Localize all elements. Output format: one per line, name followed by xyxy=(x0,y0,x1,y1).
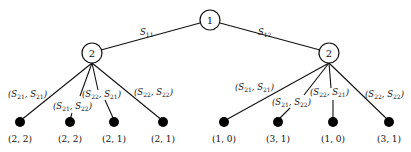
leaf-node xyxy=(109,117,119,127)
leaf-node xyxy=(328,117,338,127)
player2-node-right: 2 xyxy=(319,43,339,63)
label-left-4: (S22, S22) xyxy=(134,87,173,98)
leaf-node xyxy=(273,117,283,127)
label-right-3: (S22, S21) xyxy=(310,87,349,98)
label-left-2: (S21, S22) xyxy=(53,101,92,112)
svg-text:2: 2 xyxy=(89,48,95,59)
leaf-node xyxy=(158,117,168,127)
payoff: (2, 2) xyxy=(58,134,82,144)
payoff: (1, 0) xyxy=(212,134,236,144)
payoff: (3, 1) xyxy=(266,134,290,144)
leaf-node xyxy=(384,117,394,127)
payoff: (2, 2) xyxy=(8,134,32,144)
label-right-4: (S22, S22) xyxy=(365,89,404,100)
payoff: (3, 1) xyxy=(377,134,401,144)
edge-left-3b xyxy=(105,100,114,120)
label-left-3: (S22, S21) xyxy=(82,89,121,100)
label-s12: S12 xyxy=(258,27,272,38)
svg-text:1: 1 xyxy=(207,15,213,26)
player2-node-left: 2 xyxy=(82,43,102,63)
label-left-1: (S21, S21) xyxy=(8,89,47,100)
edge-right-3a xyxy=(329,63,331,88)
root-node: 1 xyxy=(200,10,220,30)
svg-text:2: 2 xyxy=(326,48,332,59)
label-s11: S11 xyxy=(140,27,153,38)
game-tree: 1 2 2 S11 S12 (S21, S21) (S21, S22) (S22… xyxy=(0,0,411,152)
leaf-node xyxy=(15,117,25,127)
label-right-1: (S21, S21) xyxy=(235,82,274,93)
label-right-2: (S21, S22) xyxy=(272,97,311,108)
payoff: (2, 1) xyxy=(102,134,126,144)
payoff: (2, 1) xyxy=(151,134,175,144)
leaf-node xyxy=(65,117,75,127)
leaf-node xyxy=(219,117,229,127)
payoff: (1, 0) xyxy=(321,134,345,144)
